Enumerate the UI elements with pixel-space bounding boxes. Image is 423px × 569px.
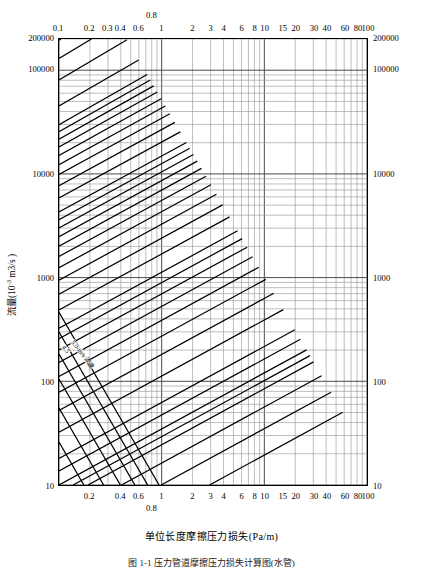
x-tick-bottom-4: 4 (221, 492, 225, 501)
y-tick-right-10000: 10000 (373, 169, 394, 178)
x-tick-bottom-3: 3 (208, 492, 212, 501)
y-tick-left-10: 10 (45, 482, 54, 491)
x-tick-top-60: 60 (341, 24, 350, 33)
x-tick-bottom-0.4: 0.4 (115, 492, 126, 501)
y-axis-title-main: 流量(10 (7, 286, 17, 317)
diameter-line-700 (59, 154, 193, 227)
x-tick-top-30: 30 (310, 24, 319, 33)
y-axis-title-tail: m3/s ) (7, 254, 17, 280)
y-tick-left-200000: 200000 (28, 34, 54, 43)
y-tick-left-10000: 10000 (33, 169, 54, 178)
x-tick-top-0.1: 0.1 (53, 24, 64, 33)
diameter-line-40 (210, 412, 343, 485)
diameter-line-650 (59, 161, 197, 236)
diameter-line-275 (59, 239, 242, 339)
x-tick-bottom-10: 10 (260, 492, 269, 501)
y-tick-left-100000: 100000 (28, 65, 54, 74)
x-tick-bottom-6: 6 (240, 492, 244, 501)
velocity-line-4.5 (59, 332, 148, 485)
x-tick-top-0.8: 0.8 (146, 11, 157, 20)
friction-loss-nomograph-figure: 0.10.20.30.40.60.81234681015203040608010… (0, 0, 423, 569)
x-tick-top-1: 1 (159, 24, 163, 33)
x-tick-top-100: 100 (362, 24, 375, 33)
x-tick-bottom-8: 8 (252, 492, 256, 501)
y-tick-left-1000: 1000 (37, 273, 54, 282)
x-tick-top-6: 6 (240, 24, 244, 33)
diameter-line-1000 (59, 122, 175, 185)
x-tick-top-15: 15 (279, 24, 288, 33)
x-tick-bottom-30: 30 (310, 492, 319, 501)
diameter-line-400 (59, 205, 223, 294)
diameter-line-1700 (59, 75, 147, 125)
y-axis-title: 流量(10-3 m3/s ) (4, 254, 18, 316)
x-tick-bottom-40: 40 (323, 492, 332, 501)
x-tick-top-10: 10 (260, 24, 269, 33)
y-tick-right-10: 10 (373, 482, 382, 491)
x-tick-bottom-0.8: 0.8 (146, 504, 157, 513)
diameter-line-250 (59, 247, 247, 350)
x-tick-top-2: 2 (190, 24, 194, 33)
diameter-line-600 (59, 168, 201, 246)
x-tick-bottom-100: 100 (362, 492, 375, 501)
x-tick-top-0.6: 0.6 (133, 24, 144, 33)
y-tick-right-100000: 100000 (373, 65, 399, 74)
x-tick-top-20: 20 (291, 24, 300, 33)
diameter-line-1200 (59, 106, 165, 165)
y-axis-title-exponent: -3 (5, 280, 12, 286)
x-tick-bottom-0.6: 0.6 (133, 492, 144, 501)
x-tick-top-0.3: 0.3 (102, 24, 113, 33)
x-tick-bottom-20: 20 (291, 492, 300, 501)
chart-plot-area (58, 38, 368, 486)
x-tick-top-40: 40 (323, 24, 332, 33)
diameter-line-1600 (59, 80, 150, 132)
x-tick-bottom-15: 15 (279, 492, 288, 501)
diameter-line-2500 (59, 40, 127, 80)
x-tick-bottom-2: 2 (190, 492, 194, 501)
x-axis-title: 单位长度摩擦压力损失(Pa/m) (0, 528, 423, 543)
x-tick-top-3: 3 (208, 24, 212, 33)
velocity-line-2 (59, 484, 60, 485)
x-tick-top-0.2: 0.2 (84, 24, 95, 33)
diameter-line-50 (161, 392, 331, 485)
x-tick-bottom-0.2: 0.2 (84, 492, 95, 501)
x-tick-bottom-60: 60 (341, 492, 350, 501)
x-tick-bottom-1: 1 (159, 492, 163, 501)
y-tick-left-100: 100 (41, 378, 54, 387)
diameter-line-2000 (59, 60, 139, 106)
figure-caption: 图 1-1 压力管道摩擦压力损失计算图(水管) (0, 556, 423, 569)
x-tick-top-4: 4 (221, 24, 225, 33)
y-tick-right-100: 100 (373, 378, 386, 387)
x-tick-top-8: 8 (252, 24, 256, 33)
diameter-line-3000 (59, 39, 91, 58)
diameter-line-350 (59, 217, 230, 310)
diameter-line-70 (88, 362, 314, 485)
y-tick-right-1000: 1000 (373, 273, 390, 282)
x-tick-top-0.4: 0.4 (115, 24, 126, 33)
chart-grid-and-curves (59, 39, 367, 485)
y-tick-right-200000: 200000 (373, 34, 399, 43)
